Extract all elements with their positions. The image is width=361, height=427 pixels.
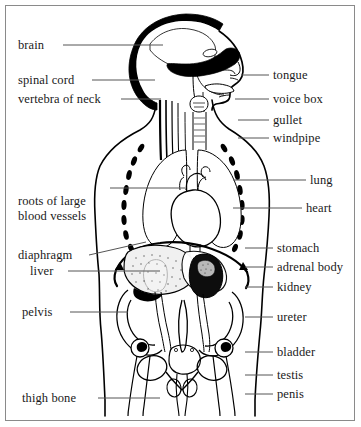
label-tongue: tongue	[273, 68, 308, 83]
label-brain: brain	[18, 38, 44, 53]
label-stomach: stomach	[277, 241, 319, 256]
label-adrenal-body: adrenal body	[277, 260, 343, 275]
label-spinal-cord: spinal cord	[18, 73, 74, 88]
label-gullet: gullet	[273, 113, 302, 128]
label-liver: liver	[30, 264, 53, 279]
label-pelvis: pelvis	[22, 305, 52, 320]
label-vertebra-of-neck: vertebra of neck	[18, 92, 101, 107]
anatomy-figure: brainspinal cordvertebra of neckroots of…	[0, 0, 361, 427]
label-windpipe: windpipe	[273, 131, 320, 146]
kidney-left	[144, 260, 168, 292]
kidney-right	[189, 254, 222, 298]
label-voice-box: voice box	[273, 92, 323, 107]
label-testis: testis	[277, 368, 303, 383]
label-lung: lung	[310, 173, 333, 188]
label-roots-of-large-blood-vessels: roots of large blood vessels	[18, 194, 110, 224]
label-heart: heart	[306, 201, 331, 216]
label-penis: penis	[277, 387, 304, 402]
label-thigh-bone: thigh bone	[22, 391, 76, 406]
label-ureter: ureter	[277, 310, 307, 325]
label-kidney: kidney	[277, 280, 312, 295]
genitalia	[166, 374, 198, 416]
label-diaphragm: diaphragm	[18, 248, 72, 263]
pelvis	[117, 290, 243, 390]
label-bladder: bladder	[277, 345, 315, 360]
